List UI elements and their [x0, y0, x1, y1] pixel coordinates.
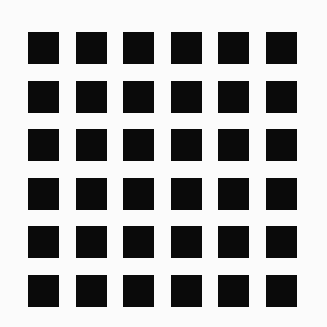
grid-square	[266, 32, 297, 64]
grid-square	[171, 32, 202, 64]
grid-square	[171, 226, 202, 258]
grid-square	[266, 178, 297, 210]
grid-square	[76, 275, 107, 307]
grid-square	[218, 178, 249, 210]
grid-square	[218, 275, 249, 307]
grid-square	[218, 32, 249, 64]
grid-square	[171, 275, 202, 307]
grid-square	[266, 275, 297, 307]
grid-square	[218, 81, 249, 113]
grid-square	[76, 178, 107, 210]
grid-square	[266, 129, 297, 161]
grid-square	[123, 32, 154, 64]
grid-square	[123, 178, 154, 210]
grid-square	[171, 81, 202, 113]
grid-square	[76, 129, 107, 161]
grid-square	[123, 226, 154, 258]
grid-square	[28, 81, 59, 113]
grid-square	[218, 226, 249, 258]
grid-square	[171, 129, 202, 161]
hermann-grid	[0, 0, 327, 327]
grid-square	[28, 226, 59, 258]
grid-square	[28, 129, 59, 161]
grid-square	[123, 275, 154, 307]
grid-square	[28, 275, 59, 307]
grid-square	[76, 81, 107, 113]
grid-square	[123, 129, 154, 161]
grid-square	[28, 178, 59, 210]
grid-square	[76, 226, 107, 258]
grid-square	[76, 32, 107, 64]
grid-square	[28, 32, 59, 64]
grid-square	[266, 226, 297, 258]
grid-square	[218, 129, 249, 161]
grid-square	[171, 178, 202, 210]
grid-square	[123, 81, 154, 113]
grid-square	[266, 81, 297, 113]
